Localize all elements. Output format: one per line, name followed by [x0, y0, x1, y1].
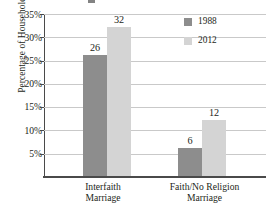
legend-swatch-icon [184, 37, 192, 45]
gridline [44, 37, 266, 38]
gridline [44, 130, 266, 131]
y-tick-mark [40, 130, 44, 131]
gridline [44, 154, 266, 155]
y-tick-label: 30% [2, 33, 42, 43]
bar-2012-faith-no-religion[interactable] [202, 120, 226, 176]
x-axis-line [43, 176, 266, 178]
gridline [44, 84, 266, 85]
legend-label: 1988 [198, 17, 217, 26]
y-tick-label: 20% [2, 79, 42, 89]
cropped-title-mark [88, 0, 95, 3]
y-tick-label: 5% [2, 149, 42, 159]
y-tick-mark [40, 84, 44, 85]
legend-swatch-icon [184, 18, 192, 26]
y-tick-label: 15% [2, 102, 42, 112]
bar-1988-faith-no-religion[interactable] [178, 148, 202, 176]
gridline [44, 14, 266, 15]
y-axis-tick-labels: 35% 30% 25% 20% 15% 10% 5% [0, 0, 42, 206]
y-tick-mark [40, 14, 44, 15]
legend: 1988 2012 [184, 17, 217, 56]
x-category-line-1: Faith/No Religion [152, 181, 257, 192]
legend-label: 2012 [198, 36, 217, 45]
plot-area: 26 32 6 12 [44, 14, 266, 177]
legend-item-1988[interactable]: 1988 [184, 17, 217, 26]
bar-1988-interfaith[interactable] [83, 55, 107, 176]
legend-item-2012[interactable]: 2012 [184, 36, 217, 45]
bar-value-label: 32 [99, 15, 139, 25]
x-category-line-2: Marriage [152, 192, 257, 203]
x-category-label-faith-no-religion: Faith/No Religion Marriage [152, 181, 257, 204]
y-tick-mark [40, 107, 44, 108]
y-tick-label: 25% [2, 56, 42, 66]
y-tick-label: 35% [2, 10, 42, 20]
y-tick-mark [40, 37, 44, 38]
y-tick-mark [40, 61, 44, 62]
x-category-line-2: Marriage [63, 192, 143, 203]
y-tick-label: 10% [2, 126, 42, 136]
bar-value-label: 12 [194, 108, 234, 118]
bar-chart: Percentage of Households 35% 30% 25% 20%… [0, 0, 266, 206]
x-category-label-interfaith: Interfaith Marriage [63, 181, 143, 204]
y-tick-mark [40, 154, 44, 155]
x-category-line-1: Interfaith [63, 181, 143, 192]
bar-2012-interfaith[interactable] [107, 27, 131, 176]
gridline [44, 61, 266, 62]
